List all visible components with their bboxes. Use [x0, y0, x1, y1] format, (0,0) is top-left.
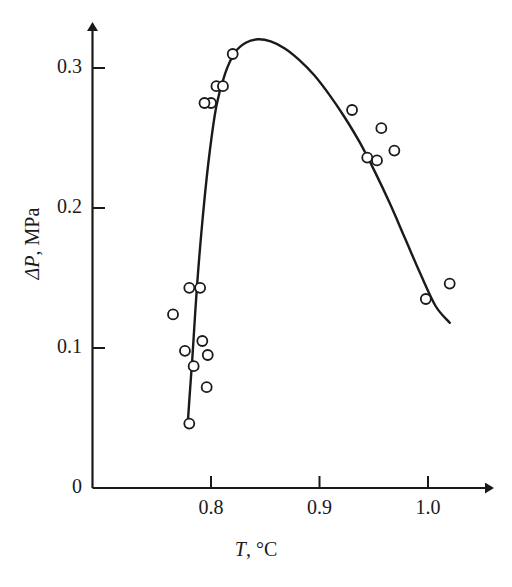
x-axis-title-symbol: T [235, 538, 246, 560]
y-axis-title: ΔP, MPa [21, 184, 44, 304]
data-point-marker [184, 283, 194, 293]
data-point-marker [199, 98, 209, 108]
data-point-marker [180, 346, 190, 356]
data-point-marker [197, 336, 207, 346]
x-tick-label: 0.8 [171, 496, 251, 519]
y-tick-label: 0.1 [10, 335, 82, 358]
data-point-marker [202, 382, 212, 392]
data-point-marker [362, 153, 372, 163]
x-axis-ticks [211, 476, 428, 488]
y-axis-ticks [93, 68, 106, 348]
fitted-curve [188, 39, 450, 424]
data-point-marker [389, 146, 399, 156]
data-point-marker [445, 279, 455, 289]
data-point-marker [184, 419, 194, 429]
y-tick-label: 0.3 [10, 55, 82, 78]
scatter-points [168, 49, 455, 429]
chart-figure: 0.30.20.10 0.80.91.0 ΔP, MPa T, °C [0, 0, 512, 587]
data-point-marker [347, 105, 357, 115]
data-point-marker [195, 283, 205, 293]
y-tick-label: 0 [10, 475, 82, 498]
x-tick-label: 0.9 [280, 496, 360, 519]
data-point-marker [372, 155, 382, 165]
data-point-marker [168, 309, 178, 319]
data-point-marker [218, 81, 228, 91]
data-point-marker [228, 49, 238, 59]
data-point-marker [376, 123, 386, 133]
x-tick-label: 1.0 [388, 496, 468, 519]
data-point-marker [421, 294, 431, 304]
y-axis-title-unit: , MPa [21, 208, 43, 256]
x-axis-title: T, °C [0, 538, 512, 561]
data-point-marker [203, 350, 213, 360]
y-axis-title-symbol: ΔP [21, 255, 43, 279]
x-axis-title-unit: , °C [246, 538, 277, 560]
data-point-marker [189, 361, 199, 371]
